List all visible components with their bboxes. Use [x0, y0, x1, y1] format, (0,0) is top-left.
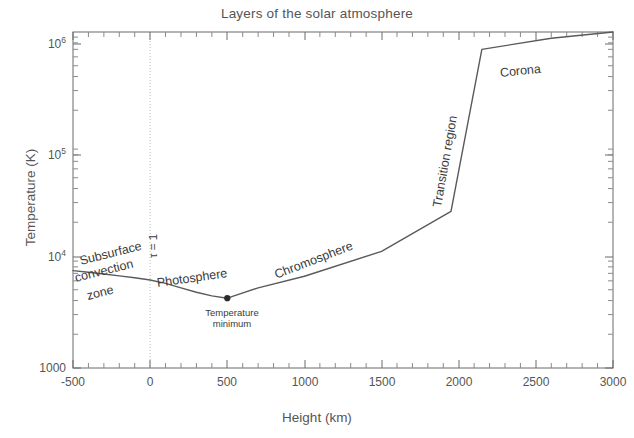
annotation-tau-unity: τ = 1	[147, 234, 159, 258]
x-major-ticks-top	[73, 32, 613, 40]
y-major-ticks	[73, 44, 613, 368]
temperature-minimum-marker	[224, 295, 230, 301]
x-minor-ticks	[88, 32, 597, 368]
chart-figure: Layers of the solar atmosphere Height (k…	[0, 0, 634, 438]
plot-frame	[73, 32, 613, 368]
y-minor-ticks	[73, 37, 613, 334]
x-major-ticks	[73, 360, 613, 368]
annotation-temperature-minimum: Temperature minimum	[205, 308, 258, 330]
temperature-minimum-line2: minimum	[205, 319, 258, 330]
